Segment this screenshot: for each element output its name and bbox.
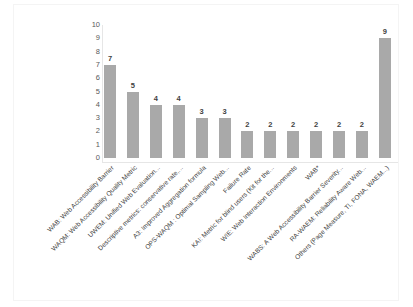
bar (310, 131, 322, 158)
y-axis-line (102, 25, 103, 163)
bar-value-label: 7 (95, 54, 125, 63)
bar (356, 131, 368, 158)
bar-value-label: 9 (370, 27, 400, 36)
y-axis-tick-label: 5 (78, 88, 100, 96)
bar (333, 131, 345, 158)
bar (287, 131, 299, 158)
chart-container: 109876543210 7544332222229 WAB: Web Acce… (13, 4, 399, 301)
y-axis-tick-label: 10 (78, 21, 100, 29)
bar (104, 65, 116, 158)
x-axis-labels: WAB: Web Accessibility BarrierWAQM: Web … (14, 158, 400, 302)
y-axis-tick-label: 1 (78, 141, 100, 149)
y-axis-tick-label: 6 (78, 74, 100, 82)
y-axis-tick-label: 2 (78, 127, 100, 135)
bar (241, 131, 253, 158)
bar-value-label: 5 (118, 81, 148, 90)
y-axis-tick-label: 9 (78, 34, 100, 42)
bar-value-label: 4 (164, 94, 194, 103)
y-axis-tick-label: 4 (78, 101, 100, 109)
bar-value-label: 3 (210, 107, 240, 116)
bar-value-label: 2 (347, 120, 377, 129)
bar (264, 131, 276, 158)
y-axis-tick-label: 3 (78, 114, 100, 122)
bar (127, 92, 139, 159)
bar (379, 38, 391, 158)
y-axis: 109876543210 (76, 20, 103, 165)
x-axis-category-label-text: WAB* (304, 164, 322, 182)
bar (219, 118, 231, 158)
bar (150, 105, 162, 158)
bar (173, 105, 185, 158)
plot-area: 7544332222229 (104, 25, 397, 158)
bar (196, 118, 208, 158)
